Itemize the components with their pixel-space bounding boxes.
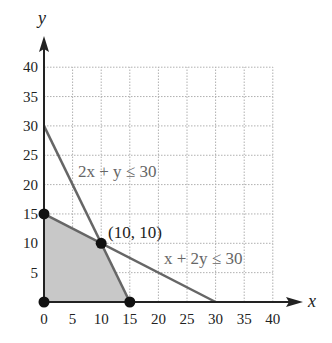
x-tick-label: 35 [237,311,252,327]
x-tick-label: 0 [40,311,48,327]
y-tick-label: 5 [31,265,39,281]
vertex-point [96,238,107,249]
constraint-label-x-plus-2y: x + 2y ≤ 30 [164,249,242,268]
intersection-point-label: (10, 10) [108,223,162,242]
x-tick-label: 40 [265,311,280,327]
feasible-region-chart: 0510152025303540510152025303540 x y 2x +… [0,0,332,343]
x-tick-label: 15 [122,311,137,327]
y-axis-label: y [36,8,46,28]
x-tick-label: 30 [208,311,223,327]
x-tick-label: 20 [151,311,166,327]
vertex-point [39,297,50,308]
y-tick-label: 20 [23,177,38,193]
y-tick-label: 40 [23,59,38,75]
constraint-label-2x-plus-y: 2x + y ≤ 30 [78,162,156,181]
x-axis-label: x [307,291,316,311]
y-tick-label: 10 [23,235,38,251]
vertex-point [39,208,50,219]
x-tick-label: 5 [69,311,77,327]
x-tick-label: 25 [180,311,195,327]
y-tick-label: 25 [23,147,38,163]
y-tick-label: 15 [23,206,38,222]
vertex-point [124,297,135,308]
y-tick-label: 30 [23,118,38,134]
y-tick-label: 35 [23,89,38,105]
x-tick-label: 10 [94,311,109,327]
